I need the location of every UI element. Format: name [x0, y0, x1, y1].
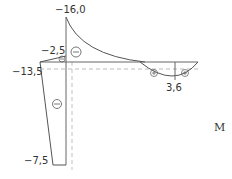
minus-sign-icon-beam — [71, 47, 81, 57]
plus-sign-icon-span-left — [151, 70, 158, 77]
hogging-curve — [66, 17, 145, 62]
moment-diagram-canvas — [0, 0, 232, 179]
plus-sign-icon-span-right — [182, 70, 189, 77]
label-beam-peak: −16,0 — [55, 5, 86, 15]
label-joint-top: −2,5 — [41, 46, 65, 56]
label-column-bottom: −7,5 — [24, 156, 48, 166]
label-span-max: 3,6 — [166, 83, 182, 93]
column-left-edge — [40, 62, 53, 165]
minus-sign-icon-column — [53, 100, 62, 109]
label-joint-left: −13,5 — [12, 67, 43, 77]
diagram-symbol-m: M — [214, 122, 225, 133]
